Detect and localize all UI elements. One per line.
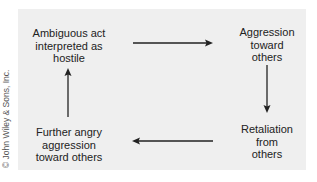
arrows-layer <box>0 0 317 182</box>
arrow-right-icon <box>133 40 213 47</box>
arrow-down-icon <box>264 65 271 113</box>
arrow-up-icon <box>65 68 72 117</box>
arrow-left-icon <box>132 138 213 145</box>
